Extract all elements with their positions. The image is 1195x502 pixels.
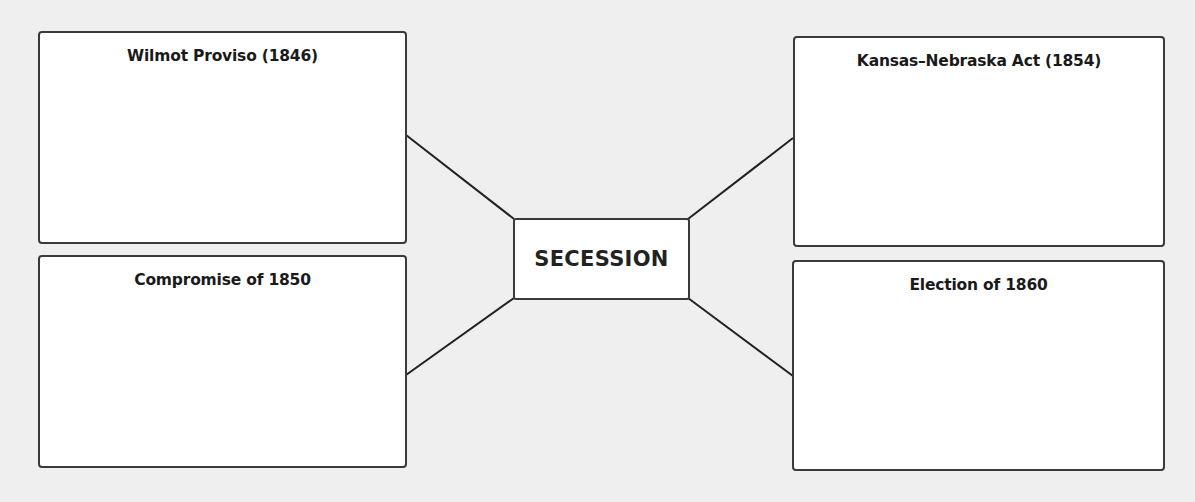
- box-title: Wilmot Proviso (1846): [40, 47, 405, 65]
- box-election-of-1860: Election of 1860: [792, 260, 1165, 471]
- box-kansas-nebraska-act: Kansas–Nebraska Act (1854): [793, 36, 1165, 247]
- center-box-secession: SECESSION: [513, 218, 690, 300]
- connector-top-right: [688, 138, 793, 219]
- box-wilmot-proviso: Wilmot Proviso (1846): [38, 31, 407, 244]
- box-title: Election of 1860: [794, 276, 1163, 294]
- box-title: Kansas–Nebraska Act (1854): [795, 52, 1163, 70]
- connector-bottom-right: [688, 298, 793, 376]
- connector-bottom-left: [406, 298, 514, 375]
- box-compromise-of-1850: Compromise of 1850: [38, 255, 407, 468]
- connector-top-left: [406, 135, 514, 219]
- center-label: SECESSION: [534, 247, 668, 271]
- box-title: Compromise of 1850: [40, 271, 405, 289]
